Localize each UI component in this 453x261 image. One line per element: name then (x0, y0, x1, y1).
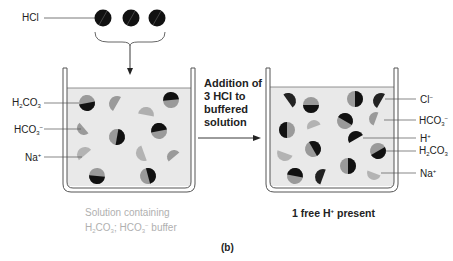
right-label-h: H+ (420, 133, 431, 144)
right-label-na: Na+ (420, 168, 436, 179)
right-label-h2co3: H2CO3 (419, 146, 448, 157)
left-label-na: Na+ (25, 152, 41, 163)
addition-line: solution (204, 116, 284, 129)
left-label-hco3: HCO3− (14, 124, 43, 136)
left-beaker (44, 68, 195, 192)
hcl-molecule (95, 10, 112, 27)
right-label-cl: Cl− (420, 94, 433, 105)
h2co3-molecule (303, 97, 319, 113)
hcl-molecule (149, 10, 166, 27)
addition-line: Addition of (204, 77, 284, 90)
left-label-h2co3: H2CO3 (12, 98, 41, 109)
hcl-label: HCl (22, 13, 39, 23)
hcl-molecule (123, 10, 140, 27)
figure-label: (b) (221, 242, 234, 253)
h2co3-molecule (347, 91, 363, 107)
addition-line: 3 HCl to (204, 90, 284, 103)
addition-description: Addition of 3 HCl to buffered solution (204, 77, 284, 129)
down-arrow-head (127, 68, 133, 75)
right-label-hco3: HCO3− (419, 115, 448, 127)
right-beaker (266, 68, 416, 192)
middle-arrow-head (253, 135, 261, 141)
left-beaker-caption: Solution containing H2CO3; HCO3− buffer (85, 207, 177, 237)
grouping-brace (95, 32, 165, 46)
h2co3-molecule (340, 158, 356, 174)
hcl-reagent-group (44, 10, 166, 76)
left-caption-line2: H2CO3; HCO3− buffer (85, 219, 177, 237)
diagram-canvas (0, 0, 453, 261)
right-beaker-caption: 1 free H+ present (292, 205, 375, 219)
addition-line: buffered (204, 103, 284, 116)
left-caption-line1: Solution containing (85, 207, 177, 219)
